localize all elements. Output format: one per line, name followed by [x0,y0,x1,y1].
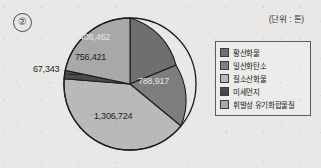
square-swatch-icon [220,48,229,57]
legend-item-fine-dust[interactable]: 미세먼지 [220,85,305,98]
legend: 황산화물 일산화탄소 질소산화물 미세먼지 휘발성 유기화합물질 [215,41,311,116]
square-swatch-icon [220,87,229,96]
pie-chart: 408,462 788,917 1,306,724 67,343 756,421 [62,16,198,152]
square-swatch-icon [220,100,229,109]
figure-number-marker: ② [13,13,32,32]
legend-item-label: 황산화물 [233,47,260,58]
square-swatch-icon [220,61,229,70]
legend-item-sulfur-oxides[interactable]: 황산화물 [220,46,305,59]
legend-item-label: 휘발성 유기화합물질 [233,99,295,110]
pie-label-nitrogen-oxides: 1,306,724 [94,111,132,121]
legend-item-label: 일산화탄소 [233,60,266,71]
pie-leader-line-fine-dust [68,74,84,75]
pie-label-sulfur-oxides: 408,462 [79,32,110,42]
pie-label-fine-dust: 67,343 [33,64,59,74]
legend-item-voc[interactable]: 휘발성 유기화합물질 [220,98,305,111]
legend-item-label: 미세먼지 [233,86,260,97]
chart-figure: ② (단위 : 톤) 408,462 788,917 1,306,724 67,… [0,0,321,168]
square-swatch-icon [220,74,229,83]
legend-item-label: 질소산화물 [233,73,266,84]
legend-item-nitrogen-oxides[interactable]: 질소산화물 [220,72,305,85]
legend-item-carbon-monoxide[interactable]: 일산화탄소 [220,59,305,72]
unit-note: (단위 : 톤) [269,12,304,24]
pie-label-carbon-monoxide: 788,917 [138,76,169,86]
pie-label-voc: 756,421 [75,52,106,62]
